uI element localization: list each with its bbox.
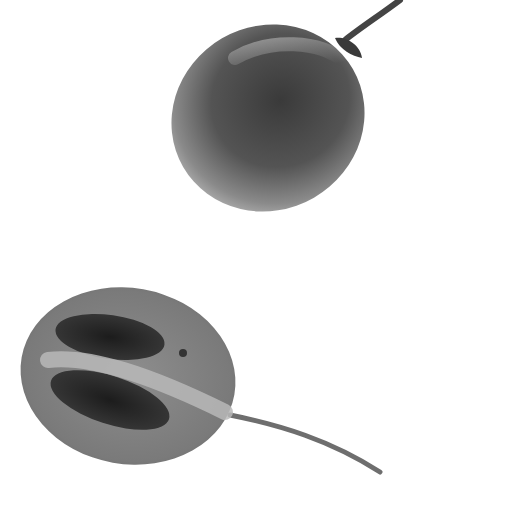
fruit-illustration: [0, 0, 511, 526]
whole-fruit: [137, 0, 400, 247]
halved-fruit: [6, 271, 380, 482]
photo-scene: [0, 0, 511, 526]
